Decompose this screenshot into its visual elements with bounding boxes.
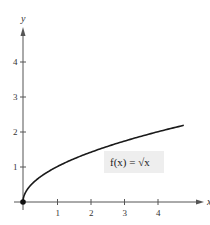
origin-point bbox=[20, 199, 26, 205]
y-axis-label: y bbox=[20, 13, 26, 24]
y-ticks: 1 2 3 4 bbox=[13, 57, 26, 172]
y-axis-arrow-icon bbox=[21, 27, 26, 36]
x-tick-label: 3 bbox=[123, 208, 128, 218]
y-tick-label: 4 bbox=[13, 57, 18, 67]
y-tick-label: 3 bbox=[13, 92, 18, 102]
x-axis-label: x bbox=[206, 196, 210, 207]
y-tick-label: 1 bbox=[13, 162, 18, 172]
x-tick-label: 1 bbox=[56, 208, 61, 218]
function-label: f(x) = √x bbox=[110, 156, 150, 169]
x-tick-label: 2 bbox=[89, 208, 94, 218]
sqrt-function-graph: x y 1 2 3 4 1 2 3 4 f(x) = √x bbox=[0, 0, 210, 225]
x-axis-arrow-icon bbox=[196, 200, 204, 205]
x-tick-label: 4 bbox=[156, 208, 161, 218]
y-tick-label: 2 bbox=[13, 127, 18, 137]
